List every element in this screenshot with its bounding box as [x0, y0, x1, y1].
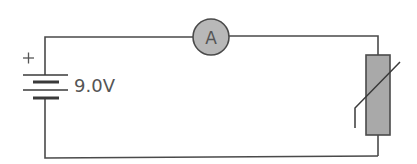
wire-top-right — [229, 36, 378, 55]
battery-voltage-label: 9.0V — [74, 75, 116, 96]
circuit-diagram: 9.0V A — [0, 0, 417, 164]
ammeter-symbol: A — [193, 19, 229, 55]
wire-bottom — [45, 98, 378, 158]
thermistor-body — [366, 55, 390, 135]
battery-symbol — [23, 75, 68, 98]
ammeter-label: A — [205, 28, 217, 48]
positive-terminal-marker — [23, 53, 34, 64]
wire-top-left — [45, 37, 193, 75]
thermistor-symbol — [355, 55, 400, 135]
